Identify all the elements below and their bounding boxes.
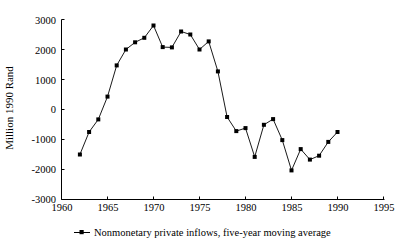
data-point-marker <box>152 24 156 28</box>
data-point-marker <box>280 138 284 142</box>
data-point-marker <box>133 40 137 44</box>
data-point-marker <box>179 30 183 34</box>
data-point-marker <box>253 155 257 159</box>
data-point-marker <box>115 63 119 67</box>
data-point-marker <box>142 36 146 40</box>
data-point-marker <box>262 123 266 127</box>
x-tick-label: 1990 <box>328 202 349 213</box>
data-point-marker <box>299 147 303 151</box>
x-tick-label: 1970 <box>144 202 165 213</box>
y-tick-label: 1000 <box>35 75 56 86</box>
data-point-marker <box>290 168 294 172</box>
chart-legend: Nonmonetary private inflows, five-year m… <box>74 227 331 238</box>
data-point-marker <box>198 48 202 52</box>
data-point-marker <box>308 158 312 162</box>
data-point-marker <box>78 153 82 157</box>
legend-marker-icon <box>80 230 84 234</box>
chart-figure: Million 1990 Rand 3000 2000 1000 0 -1000… <box>0 0 405 249</box>
line-chart: Million 1990 Rand 3000 2000 1000 0 -1000… <box>0 0 405 249</box>
data-point-marker <box>326 140 330 144</box>
y-tick-label: 3000 <box>35 15 56 26</box>
data-point-marker <box>225 115 229 119</box>
x-tick-label: 1960 <box>52 202 73 213</box>
y-tick-label: 2000 <box>35 45 56 56</box>
y-tick-labels: 3000 2000 1000 0 -1000 -2000 -3000 <box>32 15 57 205</box>
legend-entry-label: Nonmonetary private inflows, five-year m… <box>94 227 331 238</box>
x-tick-label: 1965 <box>98 202 119 213</box>
y-tick-label: 0 <box>51 104 56 115</box>
series-markers <box>78 24 340 173</box>
y-tick-label: -2000 <box>32 164 57 175</box>
y-axis-title: Million 1990 Rand <box>3 66 15 150</box>
x-tick-label: 1975 <box>190 202 211 213</box>
data-point-marker <box>161 45 165 49</box>
x-tick-labels: 1960 1965 1970 1975 1980 1985 1990 1995 <box>52 202 395 213</box>
data-point-marker <box>106 95 110 99</box>
data-point-marker <box>124 48 128 52</box>
data-point-marker <box>87 130 91 134</box>
data-point-marker <box>207 39 211 43</box>
x-tick-label: 1985 <box>282 202 303 213</box>
x-tick-label: 1980 <box>236 202 257 213</box>
data-point-marker <box>317 154 321 158</box>
data-point-marker <box>271 117 275 121</box>
data-point-marker <box>96 117 100 121</box>
data-point-marker <box>244 126 248 130</box>
data-point-marker <box>170 45 174 49</box>
data-point-marker <box>234 129 238 133</box>
y-tick-label: -1000 <box>32 134 57 145</box>
data-point-marker <box>216 69 220 73</box>
data-point-marker <box>336 130 340 134</box>
data-point-marker <box>188 33 192 37</box>
x-tick-label: 1995 <box>374 202 395 213</box>
